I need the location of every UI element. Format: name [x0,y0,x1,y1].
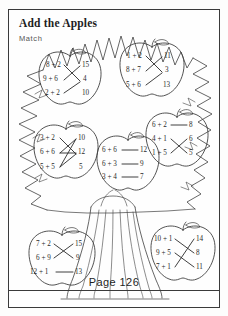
apple-top-left: 8 + 2 9 + 6 2 + 2 15 4 10 [34,48,106,106]
answer: 15 [75,240,82,248]
page-frame: Add the Apples Match 8 + 2 9 + 6 2 + 2 [8,9,220,308]
problem: 8 + 7 [126,66,141,74]
problem: 6 + 3 [102,160,117,168]
answer: 3 [165,66,169,74]
answer: 4 [83,75,87,83]
answer: 12 [78,148,85,156]
instruction-text: Match [19,34,42,43]
problem: 6 + 9 [36,254,51,262]
page-number: Page 126 [9,276,219,288]
apple-middle-right: 6 + 2 4 + 1 1 + 5 8 6 5 [141,108,213,168]
apple-top-right: 1 + 2 8 + 7 5 + 6 11 3 13 [115,38,189,98]
problem: 4 + 1 [152,135,167,143]
problem: 3 + 4 [102,173,117,181]
problem: 5 + 5 [40,163,55,171]
answer: 7 [140,173,144,181]
answer: 8 [189,121,193,129]
problem: 9 + 6 [43,75,58,83]
problem: 1 + 5 [152,149,167,157]
problem: 5 + 6 [126,81,141,89]
footer-divider [9,290,219,291]
answer: 14 [196,235,203,243]
answer: 10 [82,89,89,97]
answer: 5 [79,163,83,171]
problem: 2 + 2 [45,89,60,97]
equation-list: 1 + 2 8 + 7 5 + 6 11 3 13 [115,38,189,98]
apple-middle-left: 3 + 2 6 + 6 5 + 5 10 12 5 [29,120,103,180]
problem: 10 + 1 [154,235,172,243]
problem: 1 + 2 [127,52,142,60]
equation-list: 6 + 2 4 + 1 1 + 5 8 6 5 [141,108,213,168]
answer: 6 [189,135,193,143]
problem: 6 + 2 [152,121,167,129]
answer: 15 [82,61,89,69]
answer: 10 [78,134,85,142]
equation-list: 10 + 1 9 + 5 7 + 1 14 8 11 [146,220,220,282]
problem: 6 + 6 [40,148,55,156]
answer: 11 [164,52,171,60]
apple-bottom-right: 10 + 1 9 + 5 7 + 1 14 8 11 [146,220,220,282]
answer: 13 [75,268,82,276]
answer: 8 [196,249,200,257]
answer: 9 [76,254,80,262]
problem: 8 + 2 [46,61,61,69]
problem: 3 + 2 [40,134,55,142]
worksheet-page: Add the Apples Match 8 + 2 9 + 6 2 + 2 [0,0,228,316]
equation-list: 8 + 2 9 + 6 2 + 2 15 4 10 [34,48,106,106]
problem: 9 + 5 [156,249,171,257]
equation-list: 3 + 2 6 + 6 5 + 5 10 12 5 [29,120,103,180]
answer: 13 [163,81,170,89]
answer: 11 [196,263,203,271]
answer: 5 [189,149,193,157]
problem: 6 + 6 [102,146,117,154]
problem: 7 + 2 [36,240,51,248]
problem: 12 + 1 [30,268,48,276]
page-title: Add the Apples [19,17,97,29]
problem: 7 + 1 [156,263,171,271]
